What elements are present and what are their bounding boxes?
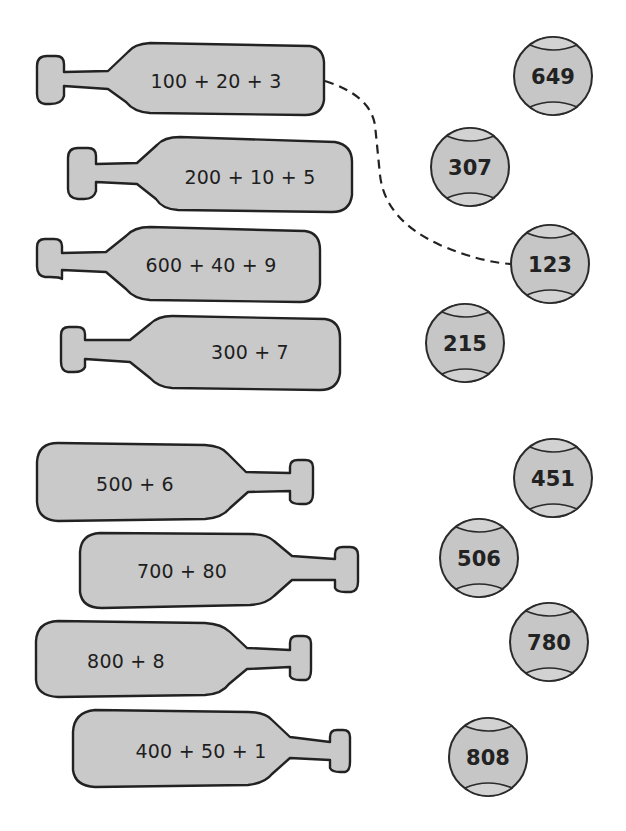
paddle-7[interactable] [35,620,312,698]
paddle-1-expression: 100 + 20 + 3 [151,70,282,92]
ball-451-value: 451 [531,467,575,491]
ball-506-value: 506 [457,547,501,571]
paddle-2-expression: 200 + 10 + 5 [185,166,316,188]
ball-215-value: 215 [443,332,487,356]
ball-808-value: 808 [466,746,510,770]
worksheet-canvas [0,0,626,831]
paddle-4-expression: 300 + 7 [211,341,289,363]
paddle-5-expression: 500 + 6 [96,473,174,495]
ball-649-value: 649 [531,65,575,89]
paddle-3-expression: 600 + 40 + 9 [146,254,277,276]
ball-307-value: 307 [448,156,492,180]
ball-123-value: 123 [528,253,572,277]
ball-780-value: 780 [527,631,571,655]
paddle-8-expression: 400 + 50 + 1 [136,740,267,762]
paddle-5[interactable] [36,442,314,522]
paddle-6-expression: 700 + 80 [137,560,227,582]
paddle-4[interactable] [60,315,341,391]
paddle-7-expression: 800 + 8 [87,650,165,672]
